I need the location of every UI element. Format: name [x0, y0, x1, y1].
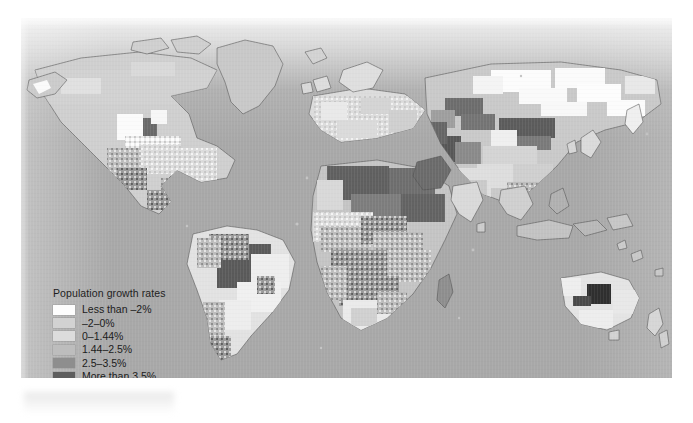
legend-swatch-2	[53, 331, 75, 341]
legend-label-4: 2.5–3.5%	[82, 358, 126, 369]
figure-page: Population growth rates Less than –2% –2…	[0, 0, 693, 423]
legend-item: 0–1.44%	[53, 330, 166, 343]
map-legend: Population growth rates Less than –2% –2…	[53, 287, 166, 378]
legend-swatch-5	[53, 372, 75, 378]
legend-swatch-4	[53, 358, 75, 368]
region-australia	[561, 240, 669, 348]
legend-label-3: 1.44–2.5%	[82, 344, 132, 355]
legend-swatch-1	[53, 318, 75, 328]
scan-smudge	[24, 392, 174, 414]
legend-item: 2.5–3.5%	[53, 357, 166, 370]
region-europe	[301, 62, 425, 142]
legend-label-1: –2–0%	[82, 318, 115, 329]
region-south-america	[187, 226, 295, 360]
legend-item: –2–0%	[53, 316, 166, 329]
legend-label-2: 0–1.44%	[82, 331, 123, 342]
legend-item: 1.44–2.5%	[53, 343, 166, 356]
legend-title: Population growth rates	[53, 287, 166, 299]
legend-swatch-3	[53, 345, 75, 355]
legend-label-5: More than 3.5%	[82, 371, 156, 378]
legend-label-0: Less than –2%	[82, 304, 151, 315]
region-north-america	[27, 52, 235, 214]
legend-swatch-0	[53, 305, 75, 315]
world-map-plate: Population growth rates Less than –2% –2…	[21, 18, 672, 378]
legend-item: More than 3.5%	[53, 370, 166, 378]
legend-item: Less than –2%	[53, 303, 166, 316]
